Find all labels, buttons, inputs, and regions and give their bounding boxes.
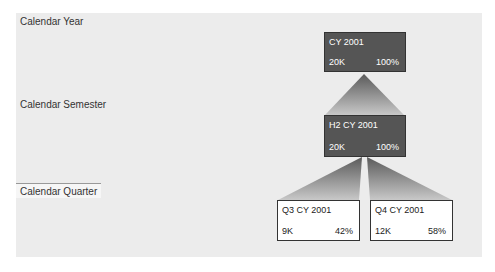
level-label-calendar-quarter[interactable]: Calendar Quarter (16, 183, 101, 198)
node-title: H2 CY 2001 (329, 120, 378, 130)
node-percent: 42% (335, 226, 353, 236)
node-title: Q4 CY 2001 (375, 205, 424, 215)
node-cy-2001[interactable]: CY 2001 20K 100% (324, 32, 406, 72)
node-q3-cy-2001[interactable]: Q3 CY 2001 9K 42% (277, 200, 360, 241)
level-label-calendar-year[interactable]: Calendar Year (20, 16, 83, 27)
node-percent: 100% (376, 57, 399, 67)
node-percent: 100% (376, 142, 399, 152)
node-h2-cy-2001[interactable]: H2 CY 2001 20K 100% (324, 115, 406, 157)
node-value: 20K (329, 57, 345, 67)
node-percent: 58% (428, 226, 446, 236)
connector-semester-q3 (278, 157, 362, 200)
node-value: 20K (329, 142, 345, 152)
connector-semester-q4 (367, 157, 452, 200)
connector-year-semester (325, 74, 404, 115)
node-value: 12K (375, 226, 391, 236)
level-label-calendar-semester[interactable]: Calendar Semester (20, 99, 106, 110)
node-q4-cy-2001[interactable]: Q4 CY 2001 12K 58% (370, 200, 453, 241)
node-value: 9K (282, 226, 293, 236)
node-title: CY 2001 (329, 37, 364, 47)
node-title: Q3 CY 2001 (282, 205, 331, 215)
